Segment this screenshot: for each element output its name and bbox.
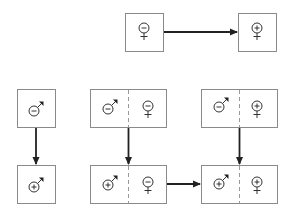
node-b xyxy=(18,166,56,204)
diagram-canvas xyxy=(0,0,293,216)
node-top-right xyxy=(239,14,277,52)
node-c xyxy=(91,90,167,128)
node-f xyxy=(202,166,278,204)
node-d xyxy=(91,166,167,204)
node-a xyxy=(18,90,56,128)
node-e xyxy=(202,90,278,128)
node-top-left xyxy=(126,14,164,52)
